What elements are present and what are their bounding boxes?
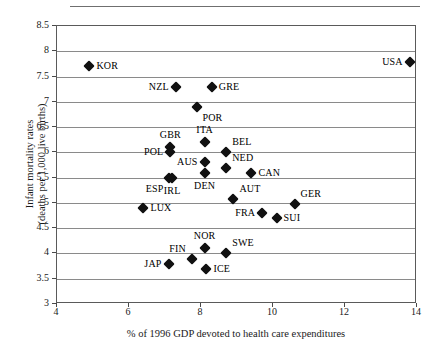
data-point-label: ITA bbox=[189, 125, 221, 135]
y-axis-tick-mark bbox=[52, 25, 56, 26]
diamond-marker-icon bbox=[201, 263, 212, 274]
y-axis-tick-mark bbox=[52, 227, 56, 228]
data-point-label: SWE bbox=[232, 238, 254, 248]
data-point-label: FIN bbox=[169, 244, 186, 254]
data-point-label: KOR bbox=[96, 61, 118, 71]
diamond-marker-icon bbox=[165, 147, 176, 158]
y-axis-tick-label: 4.5 bbox=[37, 222, 50, 232]
diamond-marker-icon bbox=[84, 61, 95, 72]
data-point-label: ICE bbox=[213, 264, 230, 274]
y-axis-tick-label: 8 bbox=[44, 45, 49, 55]
y-axis-title-line2: (deaths per 1,000 live births) bbox=[36, 54, 48, 274]
diamond-marker-icon bbox=[257, 207, 268, 218]
gridline-horizontal bbox=[57, 51, 415, 52]
diamond-marker-icon bbox=[170, 81, 181, 92]
diamond-marker-icon bbox=[186, 253, 197, 264]
data-point-label: GRE bbox=[219, 82, 240, 92]
y-axis-tick-label: 4 bbox=[44, 247, 49, 257]
gridline-horizontal bbox=[57, 77, 415, 78]
data-point-label: NED bbox=[232, 153, 253, 163]
data-point-label: IRL bbox=[156, 186, 188, 196]
data-point-label: FRA bbox=[235, 208, 255, 218]
diamond-marker-icon bbox=[221, 147, 232, 158]
y-axis-tick-label: 3.5 bbox=[37, 273, 50, 283]
x-axis-tick-label: 8 bbox=[180, 307, 220, 317]
x-axis-title: % of 1996 GDP devoted to health care exp… bbox=[56, 328, 416, 340]
y-axis-tick-mark bbox=[52, 50, 56, 51]
y-axis-tick-mark bbox=[52, 252, 56, 253]
y-axis-tick-label: 5.5 bbox=[37, 172, 50, 182]
x-axis-tick-label: 14 bbox=[396, 307, 436, 317]
data-point-label: GER bbox=[301, 189, 322, 199]
x-axis-tick-label: 6 bbox=[108, 307, 148, 317]
diamond-marker-icon bbox=[289, 198, 300, 209]
y-axis-tick-mark bbox=[52, 278, 56, 279]
data-point-label: BEL bbox=[232, 137, 252, 147]
diamond-marker-icon bbox=[199, 137, 210, 148]
gridline-horizontal bbox=[57, 279, 415, 280]
y-axis-tick-label: 7 bbox=[44, 96, 49, 106]
y-axis-tick-mark bbox=[52, 126, 56, 127]
diamond-marker-icon bbox=[163, 258, 174, 269]
y-axis-tick-label: 6.5 bbox=[37, 121, 50, 131]
gridline-horizontal bbox=[57, 102, 415, 103]
data-point-label: GBR bbox=[154, 130, 186, 140]
plot-area: KORUSANZLGREPORITAGBRBELPOLAUSNEDDENCANE… bbox=[56, 25, 416, 303]
gridline-horizontal bbox=[57, 127, 415, 128]
y-axis-tick-label: 5 bbox=[44, 197, 49, 207]
diamond-marker-icon bbox=[404, 57, 415, 68]
diamond-marker-icon bbox=[221, 248, 232, 259]
data-point-label: NZL bbox=[149, 82, 169, 92]
x-axis-tick-label: 12 bbox=[324, 307, 364, 317]
y-axis-tick-label: 8.5 bbox=[37, 20, 50, 30]
y-axis-tick-mark bbox=[52, 177, 56, 178]
data-point-label: POL bbox=[144, 147, 164, 157]
data-point-label: NOR bbox=[189, 231, 221, 241]
diamond-marker-icon bbox=[221, 162, 232, 173]
x-axis-tick-label: 10 bbox=[252, 307, 292, 317]
diamond-marker-icon bbox=[206, 81, 217, 92]
gridline-horizontal bbox=[57, 228, 415, 229]
y-axis-tick-mark bbox=[52, 101, 56, 102]
data-point-label: JAP bbox=[144, 259, 161, 269]
data-point-label: AUS bbox=[177, 157, 198, 167]
gridline-horizontal bbox=[57, 178, 415, 179]
diamond-marker-icon bbox=[271, 212, 282, 223]
gridline-horizontal bbox=[57, 253, 415, 254]
data-point-label: POR bbox=[202, 113, 222, 123]
diamond-marker-icon bbox=[199, 167, 210, 178]
y-axis-title: Infant mortality rates (deaths per 1,000… bbox=[24, 54, 48, 274]
scatter-chart-figure: KORUSANZLGREPORITAGBRBELPOLAUSNEDDENCANE… bbox=[0, 0, 441, 354]
y-axis-tick-label: 6 bbox=[44, 146, 49, 156]
data-point-label: CAN bbox=[258, 168, 280, 178]
gridline-horizontal bbox=[57, 203, 415, 204]
y-axis-tick-mark bbox=[52, 76, 56, 77]
data-point-label: SUI bbox=[284, 213, 301, 223]
y-axis-title-line1: Infant mortality rates bbox=[24, 120, 35, 209]
x-axis-tick-label: 4 bbox=[36, 307, 76, 317]
data-point-label: USA bbox=[382, 57, 403, 67]
diamond-marker-icon bbox=[246, 167, 257, 178]
top-rule-divider bbox=[70, 6, 420, 7]
data-point-label: DEN bbox=[189, 181, 221, 191]
y-axis-tick-mark bbox=[52, 151, 56, 152]
data-point-label: LUX bbox=[150, 203, 171, 213]
data-point-label: AUT bbox=[239, 184, 260, 194]
y-axis-tick-mark bbox=[52, 202, 56, 203]
y-axis-tick-label: 7.5 bbox=[37, 71, 50, 81]
